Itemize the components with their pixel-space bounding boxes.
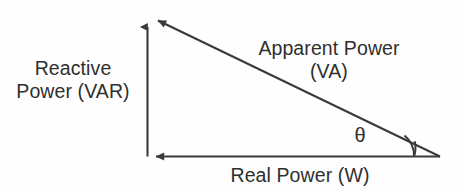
phase-angle-label: θ xyxy=(350,124,370,147)
real-power-label-line1: Real Power (W) xyxy=(224,164,376,187)
reactive-power-label-line1: Reactive xyxy=(0,57,146,80)
apparent-power-label-line1: Apparent Power xyxy=(254,37,404,60)
theta-symbol: θ xyxy=(350,124,370,147)
apparent-power-label: Apparent Power (VA) xyxy=(254,37,404,83)
reactive-power-label-line2: Power (VAR) xyxy=(0,80,146,103)
phase-angle-arc-extension xyxy=(405,136,415,157)
reactive-power-label: Reactive Power (VAR) xyxy=(0,57,146,103)
power-triangle-diagram: Reactive Power (VAR) Apparent Power (VA)… xyxy=(0,0,464,194)
real-power-label: Real Power (W) xyxy=(224,164,376,187)
apparent-power-label-line2: (VA) xyxy=(254,60,404,83)
